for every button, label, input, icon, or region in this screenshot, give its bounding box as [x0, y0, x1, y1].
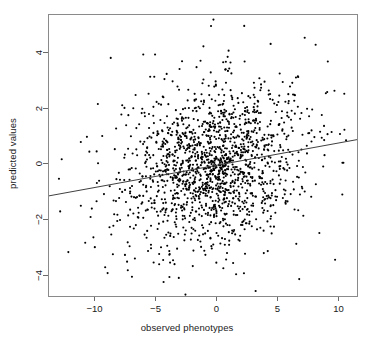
data-point — [227, 137, 229, 139]
data-point — [241, 146, 243, 148]
data-point — [214, 204, 216, 206]
data-point — [166, 157, 168, 159]
data-point — [247, 182, 249, 184]
data-point — [279, 72, 281, 74]
data-point — [195, 66, 197, 68]
data-point — [278, 124, 280, 126]
data-point — [133, 228, 135, 230]
data-point — [217, 131, 219, 133]
data-point — [169, 154, 171, 156]
data-point — [176, 149, 178, 151]
data-point — [131, 185, 133, 187]
data-point — [267, 210, 269, 212]
data-point — [131, 276, 133, 278]
data-point — [213, 208, 215, 210]
data-point — [259, 176, 261, 178]
data-point — [250, 136, 252, 138]
data-point — [184, 217, 186, 219]
data-point — [275, 111, 277, 113]
data-point — [269, 225, 271, 227]
data-point — [226, 252, 228, 254]
data-point — [196, 151, 198, 153]
data-point — [181, 175, 183, 177]
data-point — [238, 208, 240, 210]
data-point — [259, 89, 261, 91]
data-point — [199, 143, 201, 145]
data-point — [238, 192, 240, 194]
data-point — [264, 146, 266, 148]
data-point — [292, 130, 294, 132]
data-point — [169, 262, 171, 264]
data-point — [172, 177, 174, 179]
data-point — [209, 173, 211, 175]
data-point — [112, 253, 114, 255]
data-point — [167, 215, 169, 217]
data-point — [173, 121, 175, 123]
data-point — [84, 242, 86, 244]
data-point — [233, 130, 235, 132]
data-point — [194, 178, 196, 180]
data-point — [254, 127, 256, 129]
data-point — [238, 199, 240, 201]
data-point — [203, 152, 205, 154]
data-point — [281, 130, 283, 132]
data-point — [230, 205, 232, 207]
data-point — [226, 126, 228, 128]
data-point — [233, 123, 235, 125]
data-point — [148, 113, 150, 115]
data-point — [169, 233, 171, 235]
data-point — [310, 196, 312, 198]
data-point — [201, 153, 203, 155]
data-point — [200, 178, 202, 180]
data-point — [163, 142, 165, 144]
data-point — [168, 250, 170, 252]
data-point — [158, 223, 160, 225]
data-point — [197, 239, 199, 241]
data-point — [256, 105, 258, 107]
data-point — [242, 154, 244, 156]
data-point — [173, 204, 175, 206]
data-point — [190, 239, 192, 241]
data-point — [181, 209, 183, 211]
data-point — [262, 188, 264, 190]
data-point — [164, 163, 166, 165]
data-point — [206, 187, 208, 189]
data-point — [197, 136, 199, 138]
data-point — [204, 254, 206, 256]
data-point — [195, 187, 197, 189]
data-point — [148, 154, 150, 156]
data-point — [333, 90, 335, 92]
data-point — [248, 112, 250, 114]
data-point — [258, 77, 260, 79]
data-point — [247, 208, 249, 210]
data-point — [244, 110, 246, 112]
data-point — [152, 167, 154, 169]
data-point — [101, 135, 103, 137]
data-point — [184, 183, 186, 185]
data-point — [225, 68, 227, 70]
data-point — [182, 188, 184, 190]
data-point — [138, 194, 140, 196]
data-point — [321, 114, 323, 116]
data-point — [181, 120, 183, 122]
data-point — [220, 151, 222, 153]
data-point — [203, 131, 205, 133]
data-point — [271, 140, 273, 142]
data-point — [151, 207, 153, 209]
data-point — [220, 209, 222, 211]
data-point — [315, 44, 317, 46]
data-point — [186, 144, 188, 146]
data-point — [259, 121, 261, 123]
data-point — [205, 213, 207, 215]
data-point — [240, 183, 242, 185]
data-point — [183, 173, 185, 175]
data-point — [109, 185, 111, 187]
data-point — [166, 245, 168, 247]
data-point — [180, 136, 182, 138]
data-point — [176, 162, 178, 164]
data-point — [148, 200, 150, 202]
data-point — [193, 141, 195, 143]
data-point — [252, 150, 254, 152]
data-point — [210, 221, 212, 223]
data-point — [306, 152, 308, 154]
